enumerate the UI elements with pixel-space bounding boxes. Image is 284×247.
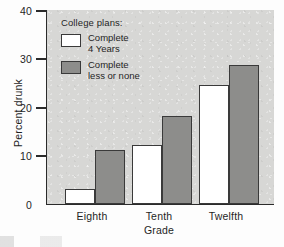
legend: College plans: Complete 4 Years Complete…: [61, 17, 179, 87]
bar-eighth-complete-less-or-none: [95, 150, 125, 204]
x-axis-title: Grade: [121, 224, 197, 236]
legend-label-line2: 4 Years: [88, 44, 129, 55]
legend-label-line1: Complete: [88, 60, 140, 71]
bar-chart-figure: 40 30 20 10 0 Percent drunk College plan…: [0, 0, 284, 247]
legend-label-complete-4-years: Complete 4 Years: [88, 33, 129, 54]
legend-label-line1: Complete: [88, 33, 129, 44]
legend-swatch-light: [61, 34, 81, 47]
y-axis-title: Percent drunk: [12, 63, 24, 163]
bar-twelfth-complete-4-years: [199, 85, 229, 204]
y-tick-label-40: 40: [0, 5, 32, 17]
scan-artifact: [0, 236, 284, 247]
legend-swatch-dark: [61, 61, 81, 74]
bar-twelfth-complete-less-or-none: [229, 65, 259, 204]
x-tick-label-tenth: Tenth: [121, 210, 197, 222]
legend-label-line2: less or none: [88, 71, 140, 82]
legend-item-complete-less-or-none: Complete less or none: [61, 60, 179, 81]
y-tick-label-0: 0: [0, 199, 32, 211]
legend-item-complete-4-years: Complete 4 Years: [61, 33, 179, 54]
legend-title: College plans:: [61, 17, 179, 28]
x-tick-label-eighth: Eighth: [54, 210, 130, 222]
bar-eighth-complete-4-years: [65, 189, 95, 204]
legend-label-complete-less-or-none: Complete less or none: [88, 60, 140, 81]
plot-area: College plans: Complete 4 Years Complete…: [46, 10, 274, 205]
x-tick-label-twelfth: Twelfth: [188, 210, 264, 222]
bar-tenth-complete-4-years: [132, 145, 162, 204]
bar-tenth-complete-less-or-none: [162, 116, 192, 204]
